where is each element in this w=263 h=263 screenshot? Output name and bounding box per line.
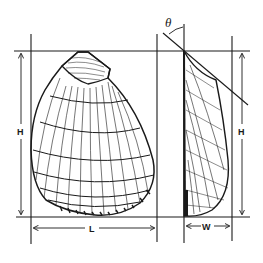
angle-tangent-line: [163, 33, 248, 105]
width-label: W: [202, 222, 211, 232]
side-radial-lines: [186, 70, 228, 208]
reference-lines: [14, 24, 250, 244]
concentric-growth-bands: [33, 96, 154, 207]
radial-ribs: [36, 78, 148, 214]
angle-theta-label: θ: [165, 15, 172, 30]
height-label-left: H: [17, 127, 24, 137]
shell-measurement-diagram: H H L W θ: [0, 0, 263, 263]
dimension-arrows: [21, 27, 242, 228]
height-label-right: H: [238, 127, 245, 137]
shell-lateral-view: [31, 52, 154, 215]
shell-side-view: [184, 51, 228, 216]
length-label: L: [89, 224, 95, 234]
hinge-shadow: [184, 190, 188, 216]
